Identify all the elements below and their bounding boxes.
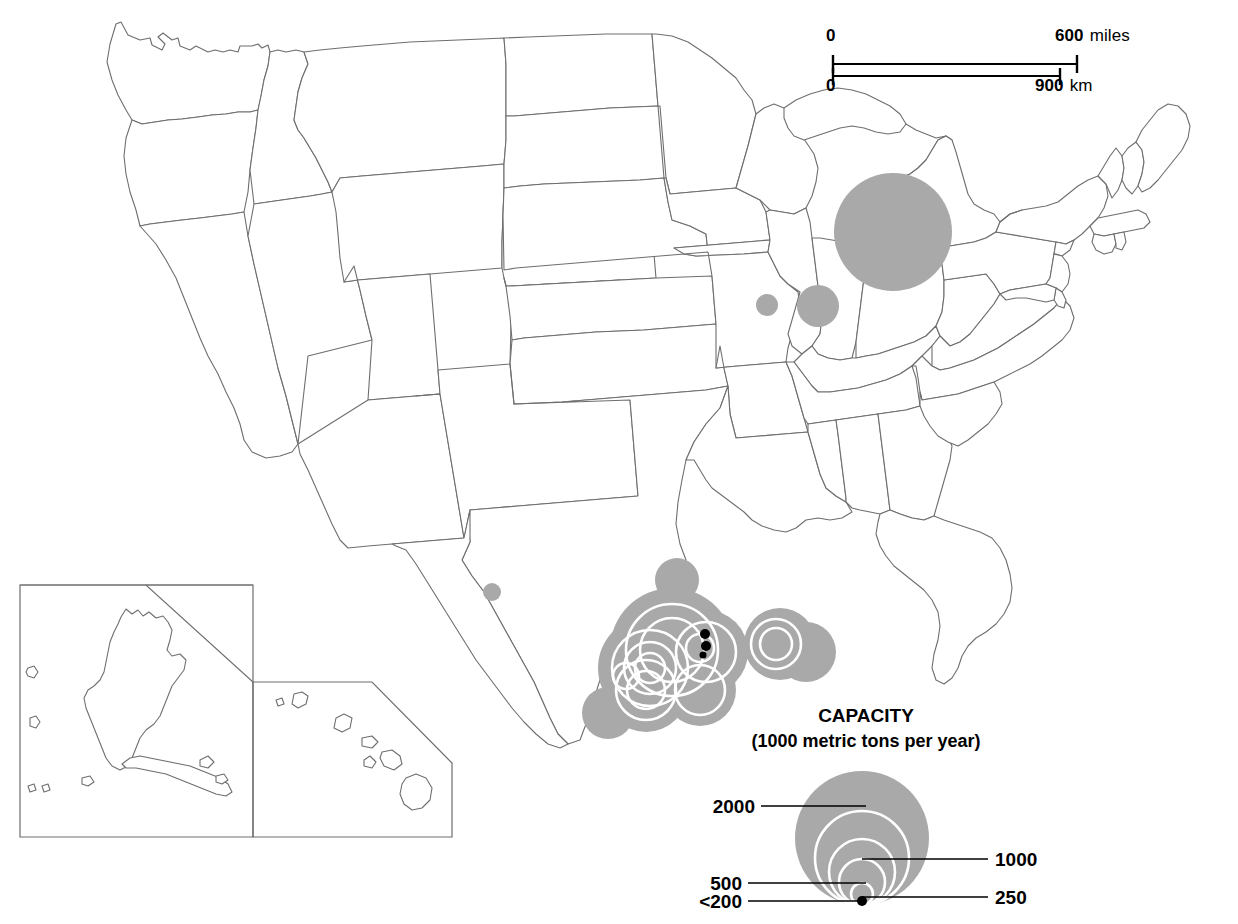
scale-km-start-value: 0	[826, 76, 836, 95]
map-figure: 0 600miles 0 900km CAPACITY (1000 metric…	[0, 0, 1238, 924]
legend-symbols	[795, 771, 929, 906]
legend-label-2000: 2000	[637, 796, 755, 818]
legend-label-250: 250	[995, 887, 1027, 909]
legend-subtitle: (1000 metric tons per year)	[686, 731, 1046, 752]
scale-miles-end: 600miles	[1055, 26, 1130, 46]
scale-km-start: 0	[826, 76, 836, 96]
inset-frame-group	[20, 585, 452, 837]
scale-km-end: 900km	[1035, 76, 1093, 96]
legend-title: CAPACITY	[716, 705, 1016, 727]
scale-miles-end-value: 600	[1055, 26, 1084, 45]
scale-miles-start-value: 0	[826, 26, 836, 45]
scale-km-unit: km	[1070, 76, 1093, 95]
scale-miles-start: 0	[826, 26, 836, 46]
scale-km-end-value: 900	[1035, 76, 1064, 95]
legend-label-lt200: <200	[612, 891, 742, 913]
scale-miles-unit: miles	[1090, 26, 1130, 45]
alaska-outline	[26, 609, 232, 796]
us-map-svg	[0, 0, 1238, 924]
hawaii-outline	[276, 692, 432, 810]
legend-label-1000: 1000	[995, 849, 1037, 871]
